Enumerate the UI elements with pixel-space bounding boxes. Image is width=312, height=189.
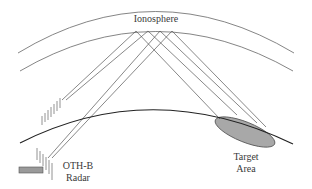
ray-paths: [48, 31, 266, 158]
target-area-ellipse: [212, 111, 279, 154]
target-label-line1: Target: [226, 151, 266, 163]
radar-label-line1: OTH-B: [58, 160, 98, 172]
ionosphere-label: Ionosphere: [128, 13, 184, 25]
ionosphere-inner-arc: [20, 32, 293, 72]
radar-label-line2: Radar: [58, 172, 98, 184]
receive-antenna-icon: [37, 148, 52, 180]
target-label: Target Area: [226, 151, 266, 174]
target-label-line2: Area: [226, 163, 266, 175]
radar-site-rect: [19, 167, 43, 173]
transmit-antenna-icon: [42, 98, 60, 125]
radar-label: OTH-B Radar: [58, 160, 98, 183]
